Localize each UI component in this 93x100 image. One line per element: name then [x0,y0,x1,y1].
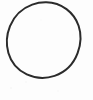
drawing-layer [0,0,93,100]
circle-shape [7,2,81,78]
scanned-image-canvas [0,0,93,100]
